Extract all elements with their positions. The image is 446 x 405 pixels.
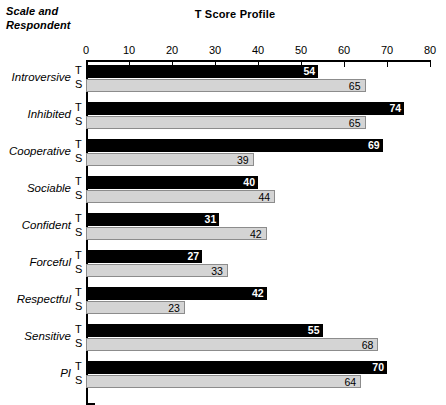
bar-value-label: 27 xyxy=(187,250,199,263)
bar-value-label: 31 xyxy=(205,213,217,226)
plot-area: IntroversiveT54S65InhibitedT74S65Coopera… xyxy=(0,62,446,392)
bar-value-label: 74 xyxy=(390,102,402,115)
bar-s: 64 xyxy=(86,375,361,388)
respondent-key-s: S xyxy=(75,337,86,350)
chart-title: T Score Profile xyxy=(150,8,320,20)
x-axis-tick-labels: 01020304050607080 xyxy=(0,44,446,58)
bar-t: 74 xyxy=(86,102,404,115)
bar-value-label: 42 xyxy=(252,287,264,300)
bar-t: 69 xyxy=(86,139,383,152)
bar-t: 31 xyxy=(86,213,219,226)
bar-row-s: S39 xyxy=(0,153,446,166)
corner-label-line-2: Respondent xyxy=(6,18,116,32)
x-tick-label: 60 xyxy=(329,44,359,56)
bar-value-label: 42 xyxy=(250,228,262,241)
bar-row-s: S23 xyxy=(0,301,446,314)
x-tick-label: 20 xyxy=(157,44,187,56)
bar-t: 27 xyxy=(86,250,202,263)
bar-t: 42 xyxy=(86,287,267,300)
respondent-key-s: S xyxy=(75,152,86,165)
scale-group: PIT70S64 xyxy=(0,360,446,397)
bar-t: 70 xyxy=(86,361,387,374)
scale-group: ForcefulT27S33 xyxy=(0,249,446,286)
respondent-key-s: S xyxy=(75,300,86,313)
bar-value-label: 65 xyxy=(349,117,361,130)
respondent-key-s: S xyxy=(75,226,86,239)
scale-group: SociableT40S44 xyxy=(0,175,446,212)
bar-row-t: T69 xyxy=(0,139,446,152)
bar-row-t: T42 xyxy=(0,287,446,300)
x-tick-label: 80 xyxy=(415,44,445,56)
respondent-key-t: T xyxy=(75,249,86,262)
bar-value-label: 68 xyxy=(362,339,374,352)
bar-row-t: T55 xyxy=(0,324,446,337)
bar-row-t: T74 xyxy=(0,102,446,115)
bar-s: 65 xyxy=(86,79,366,92)
respondent-key-s: S xyxy=(75,189,86,202)
scale-group: IntroversiveT54S65 xyxy=(0,64,446,101)
bar-s: 44 xyxy=(86,190,275,203)
bar-row-t: T54 xyxy=(0,65,446,78)
bar-value-label: 65 xyxy=(349,80,361,93)
scale-group: InhibitedT74S65 xyxy=(0,101,446,138)
bar-value-label: 40 xyxy=(243,176,255,189)
respondent-key-t: T xyxy=(75,360,86,373)
bar-row-s: S33 xyxy=(0,264,446,277)
bar-row-s: S65 xyxy=(0,79,446,92)
bar-row-t: T70 xyxy=(0,361,446,374)
bar-row-s: S68 xyxy=(0,338,446,351)
bar-value-label: 55 xyxy=(308,324,320,337)
respondent-key-t: T xyxy=(75,323,86,336)
bar-row-s: S65 xyxy=(0,116,446,129)
bar-row-t: T27 xyxy=(0,250,446,263)
x-tick-label: 70 xyxy=(372,44,402,56)
x-tick-label: 30 xyxy=(200,44,230,56)
respondent-key-s: S xyxy=(75,263,86,276)
x-tick-label: 10 xyxy=(114,44,144,56)
bar-s: 68 xyxy=(86,338,378,351)
bar-t: 54 xyxy=(86,65,318,78)
scale-group: CooperativeT69S39 xyxy=(0,138,446,175)
respondent-key-s: S xyxy=(75,115,86,128)
bar-s: 65 xyxy=(86,116,366,129)
respondent-key-t: T xyxy=(75,212,86,225)
bar-value-label: 54 xyxy=(304,65,316,78)
bar-row-s: S44 xyxy=(0,190,446,203)
respondent-key-t: T xyxy=(75,286,86,299)
respondent-key-t: T xyxy=(75,64,86,77)
scale-group: RespectfulT42S23 xyxy=(0,286,446,323)
respondent-key-t: T xyxy=(75,175,86,188)
x-tick-label: 50 xyxy=(286,44,316,56)
bar-t: 40 xyxy=(86,176,258,189)
bar-row-t: T31 xyxy=(0,213,446,226)
bar-t: 55 xyxy=(86,324,323,337)
respondent-key-s: S xyxy=(75,374,86,387)
x-tick-label: 40 xyxy=(243,44,273,56)
scale-group: ConfidentT31S42 xyxy=(0,212,446,249)
bar-value-label: 44 xyxy=(259,191,271,204)
bar-value-label: 23 xyxy=(168,302,180,315)
bar-value-label: 64 xyxy=(345,376,357,389)
bar-row-t: T40 xyxy=(0,176,446,189)
bar-row-s: S64 xyxy=(0,375,446,388)
bar-s: 39 xyxy=(86,153,254,166)
scale-group: SensitiveT55S68 xyxy=(0,323,446,360)
bar-s: 42 xyxy=(86,227,267,240)
bar-s: 33 xyxy=(86,264,228,277)
respondent-key-t: T xyxy=(75,101,86,114)
x-tick-label: 0 xyxy=(71,44,101,56)
corner-label-line-1: Scale and xyxy=(6,4,116,18)
bar-value-label: 69 xyxy=(368,139,380,152)
respondent-key-s: S xyxy=(75,78,86,91)
bar-s: 23 xyxy=(86,301,185,314)
bar-row-s: S42 xyxy=(0,227,446,240)
axis-corner-label: Scale and Respondent xyxy=(6,4,116,32)
bar-value-label: 39 xyxy=(237,154,249,167)
bar-value-label: 33 xyxy=(211,265,223,278)
bar-value-label: 70 xyxy=(372,361,384,374)
respondent-key-t: T xyxy=(75,138,86,151)
